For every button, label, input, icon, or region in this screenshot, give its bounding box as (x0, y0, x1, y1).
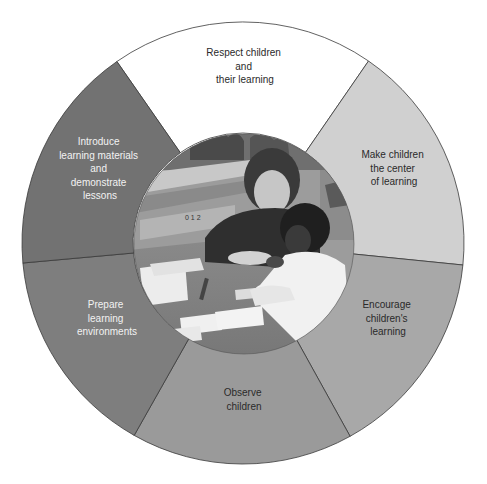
teaching-wheel-diagram: 0 1 2 Respect children and their learni (0, 0, 487, 484)
svg-text:0 1 2: 0 1 2 (185, 214, 201, 221)
label-center-of-learning: Make children the center of learning (361, 149, 426, 187)
